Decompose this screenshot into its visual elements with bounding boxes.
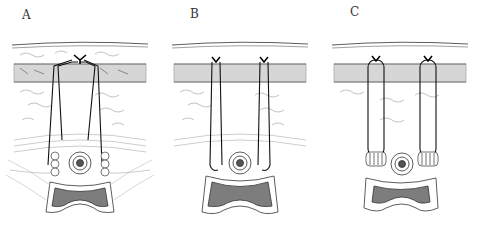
panel-c: C	[320, 0, 479, 225]
illustration-b	[160, 0, 320, 225]
vessel	[69, 152, 91, 174]
knot	[74, 55, 86, 64]
illustration-a	[0, 0, 160, 225]
knot-right	[260, 57, 268, 62]
panel-a: A	[0, 0, 160, 225]
muscle-fibers	[174, 134, 306, 146]
fascia-layer	[14, 64, 146, 82]
skin-layer	[12, 42, 148, 48]
fat-layer	[340, 90, 439, 122]
illustration-c	[320, 0, 479, 225]
fat-layer-bottom	[20, 90, 124, 125]
skin-layer	[332, 42, 468, 48]
rectum	[202, 176, 278, 214]
fascia-layer	[174, 64, 306, 82]
bolster-left	[366, 152, 386, 166]
skin-layer	[172, 42, 308, 48]
fat-layer-top	[20, 51, 119, 57]
rectum	[364, 178, 438, 211]
knot-left	[212, 57, 220, 62]
vessel	[391, 153, 413, 175]
bolster-right	[418, 152, 438, 166]
fascia-layer	[334, 64, 466, 82]
rectum	[46, 182, 114, 213]
panel-b: B	[160, 0, 320, 225]
vessel	[229, 152, 251, 174]
